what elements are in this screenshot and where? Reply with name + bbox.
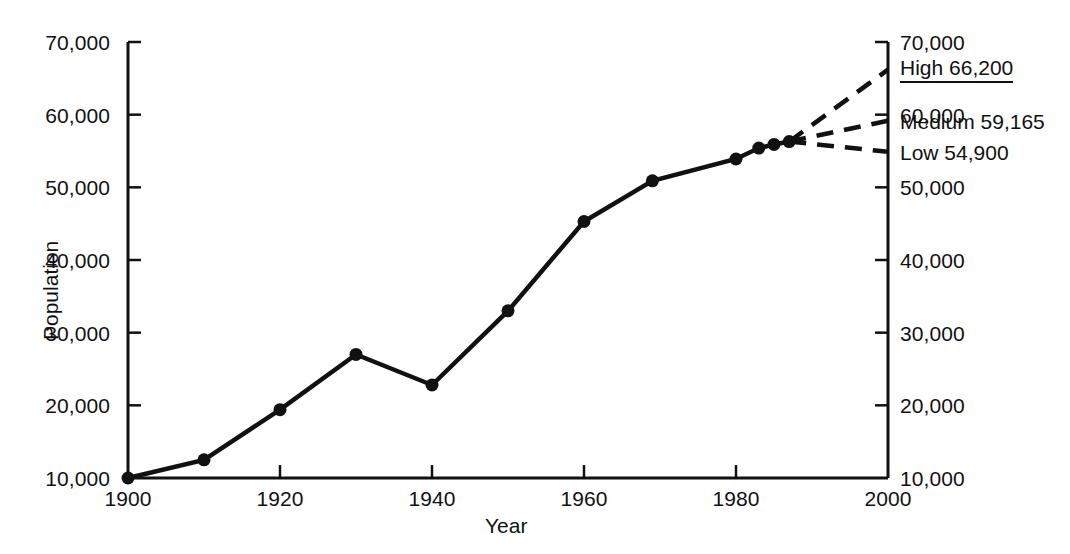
series-line: [128, 142, 789, 478]
population-projection-chart: 70,00060,00050,00040,00030,00020,00010,0…: [0, 0, 1070, 554]
projection-label-medium: Medium 59,165: [900, 110, 1045, 131]
data-point-marker: [768, 138, 781, 151]
x-tick-label: 1960: [560, 488, 607, 509]
x-tick-label: 1940: [408, 488, 455, 509]
y-tick-label-right: 40,000: [900, 250, 965, 271]
y-tick-label-left: 10,000: [0, 468, 110, 489]
y-tick-label-right: 70,000: [900, 32, 965, 53]
projection-label-high: High 66,200: [900, 57, 1013, 83]
bottom-axis-ticks: [280, 465, 736, 478]
y-tick-label-right: 50,000: [900, 177, 965, 198]
y-tick-label-left: 50,000: [0, 177, 110, 198]
y-tick-label-right: 10,000: [900, 468, 965, 489]
y-tick-label-left: 60,000: [0, 104, 110, 125]
projection-label-low: Low 54,900: [900, 141, 1009, 162]
y-tick-label-right: 20,000: [900, 395, 965, 416]
x-tick-label: 1980: [712, 488, 759, 509]
series-line: [789, 70, 888, 142]
x-tick-label: 1920: [256, 488, 303, 509]
series-line: [789, 142, 888, 152]
data-point-marker: [783, 135, 796, 148]
x-tick-label: 2000: [864, 488, 911, 509]
data-point-marker: [578, 215, 591, 228]
data-point-marker: [122, 472, 135, 485]
y-tick-label-left: 70,000: [0, 32, 110, 53]
data-point-marker: [274, 403, 287, 416]
left-axis-ticks: [128, 42, 141, 405]
data-point-marker: [426, 378, 439, 391]
y-tick-label-left: 20,000: [0, 395, 110, 416]
data-point-marker: [198, 453, 211, 466]
y-tick-label-right: 30,000: [900, 322, 965, 343]
data-point-marker: [350, 348, 363, 361]
data-series-group: [128, 70, 888, 478]
data-point-marker: [752, 142, 765, 155]
y-axis-title: Population: [40, 241, 61, 340]
x-axis-title: Year: [485, 515, 527, 536]
series-line: [789, 121, 888, 142]
data-point-markers: [122, 135, 796, 484]
x-tick-label: 1900: [104, 488, 151, 509]
data-point-marker: [502, 304, 515, 317]
data-point-marker: [730, 152, 743, 165]
axes: [128, 42, 888, 478]
right-axis-ticks: [875, 42, 888, 405]
data-point-marker: [646, 174, 659, 187]
